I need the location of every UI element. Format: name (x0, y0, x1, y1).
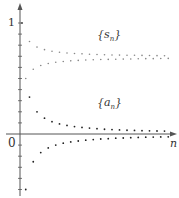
a-series-point (55, 144, 57, 146)
a-series-point (81, 127, 83, 129)
s-series-point (122, 58, 124, 60)
s-series-point (77, 60, 79, 62)
s-series-point (100, 59, 102, 61)
a-series-label: {an} (97, 97, 122, 111)
s-series-point (81, 53, 83, 55)
a-series-point (115, 137, 117, 139)
s-series-point (164, 55, 166, 57)
a-series-point (47, 147, 49, 149)
s-series-point (137, 58, 139, 60)
s-series-point (74, 53, 76, 55)
y-tick-label-1: 1 (8, 17, 15, 28)
s-series-point (104, 54, 106, 56)
a-series-point (29, 96, 31, 98)
s-series-point (96, 54, 98, 56)
a-series-point (156, 130, 158, 132)
a-series-point (160, 136, 162, 138)
s-series-point (25, 78, 27, 80)
s-series-point (70, 60, 72, 62)
a-series-point (152, 136, 154, 138)
a-series-point (107, 138, 109, 140)
s-series-point (145, 58, 147, 60)
a-series-point (122, 137, 124, 139)
a-series-point (36, 111, 38, 113)
s-series-point (21, 22, 23, 24)
s-series-point (62, 61, 64, 63)
s-series-point (152, 58, 154, 60)
a-series-point (130, 137, 132, 139)
a-series-point (119, 129, 121, 131)
a-series-point (77, 140, 79, 142)
a-series-point (44, 117, 46, 119)
s-series-label: {sn} (97, 29, 121, 43)
s-series-point (66, 52, 68, 54)
s-series-point (85, 59, 87, 61)
a-series-point (104, 128, 106, 130)
s-series-point (134, 55, 136, 57)
a-series-point (25, 189, 27, 191)
s-series-point (115, 58, 117, 60)
s-series-point (119, 54, 121, 56)
s-series-point (141, 55, 143, 57)
s-series-point (51, 50, 53, 52)
a-series-point (66, 125, 68, 127)
s-series-point (55, 61, 57, 63)
a-series-point (145, 136, 147, 138)
a-series-point (32, 161, 34, 163)
s-series-point (89, 53, 91, 55)
a-series-point (100, 138, 102, 140)
a-series-point (74, 126, 76, 128)
s-series-point (167, 58, 169, 60)
s-series-point (40, 65, 42, 67)
a-series-point (40, 152, 42, 154)
a-series-point (70, 141, 72, 143)
a-series-point (141, 130, 143, 132)
s-series-point (92, 59, 94, 61)
s-series-point (29, 41, 31, 43)
s-series-point (130, 58, 132, 60)
a-series-point (89, 127, 91, 129)
a-series-point (111, 129, 113, 131)
s-series-point (36, 46, 38, 48)
a-series-point (137, 137, 139, 139)
origin-label: 0 (8, 137, 16, 149)
s-series-point (59, 51, 61, 53)
a-series-point (149, 130, 151, 132)
s-series-point (44, 49, 46, 51)
a-series-point (92, 139, 94, 141)
a-series-point (134, 130, 136, 132)
a-series-point (164, 130, 166, 132)
s-series-point (126, 54, 128, 56)
y-axis-arrow-icon (18, 3, 23, 10)
x-axis-label: n (170, 138, 177, 149)
s-series-point (32, 68, 34, 70)
a-series-point (167, 136, 169, 138)
x-axis-arrow-icon (170, 132, 177, 137)
s-series-point (47, 63, 49, 65)
a-series-point (126, 129, 128, 131)
plot-area (0, 0, 179, 198)
a-series-point (85, 139, 87, 141)
s-series-point (156, 55, 158, 57)
a-series-point (51, 121, 53, 123)
a-series-point (96, 128, 98, 130)
s-series-point (160, 58, 162, 60)
a-series-point (62, 142, 64, 144)
s-series-point (149, 55, 151, 57)
chart: 1 0 n {sn} {an} (0, 0, 179, 198)
a-series-point (59, 123, 61, 125)
s-series-point (111, 54, 113, 56)
s-series-point (107, 59, 109, 61)
